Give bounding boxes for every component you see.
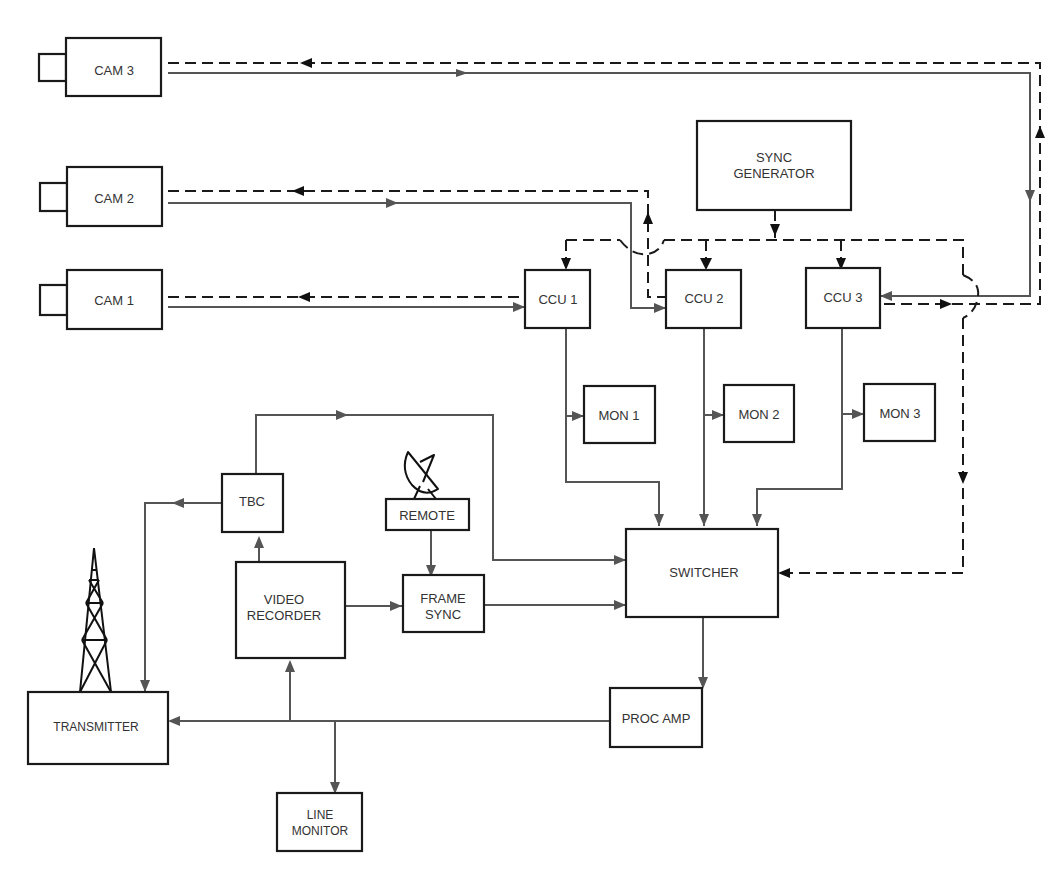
svg-text:PROC AMP: PROC AMP xyxy=(622,711,691,726)
svg-text:SWITCHER: SWITCHER xyxy=(669,565,738,580)
transmitter-block[interactable]: TRANSMITTER xyxy=(28,692,168,764)
sync-generator-to-switcher xyxy=(780,318,963,573)
monitor-3-block[interactable]: MON 3 xyxy=(864,384,935,441)
svg-text:MON 3: MON 3 xyxy=(879,406,920,421)
wire-tbc-to-switcher xyxy=(256,415,626,560)
wire-tbc-to-transmitter xyxy=(145,503,222,692)
sync-ccu2-to-cam2 xyxy=(168,191,666,297)
frame-sync-block[interactable]: FRAME SYNC xyxy=(403,575,484,632)
svg-text:MON 1: MON 1 xyxy=(598,408,639,423)
monitor-1-block[interactable]: MON 1 xyxy=(584,386,655,443)
svg-text:CCU 2: CCU 2 xyxy=(684,291,723,306)
svg-text:REMOTE: REMOTE xyxy=(399,508,455,523)
wire-cam3-to-ccu3 xyxy=(168,73,1030,296)
cam1-label: CAM 1 xyxy=(94,293,134,308)
ccu-2-block[interactable]: CCU 2 xyxy=(666,270,741,328)
sync-hop-over xyxy=(620,240,664,254)
svg-text:SYNC: SYNC xyxy=(425,607,461,622)
svg-text:SYNC: SYNC xyxy=(756,150,792,165)
tbc-block[interactable]: TBC xyxy=(222,474,283,532)
svg-text:CCU 3: CCU 3 xyxy=(823,290,862,305)
switcher-block[interactable]: SWITCHER xyxy=(626,529,778,617)
svg-text:FRAME: FRAME xyxy=(420,591,466,606)
svg-text:RECORDER: RECORDER xyxy=(247,608,321,623)
camera-2[interactable]: CAM 2 xyxy=(40,167,162,226)
svg-text:TBC: TBC xyxy=(239,494,265,509)
proc-amp-block[interactable]: PROC AMP xyxy=(610,688,702,747)
camera-lens-icon xyxy=(40,285,67,315)
camera-lens-icon xyxy=(40,183,67,211)
svg-text:MON 2: MON 2 xyxy=(738,407,779,422)
cam3-label: CAM 3 xyxy=(94,63,134,78)
satellite-dish-icon xyxy=(405,452,438,499)
sync-ccu3-to-cam3 xyxy=(168,63,1040,304)
sync-signal-wires xyxy=(168,58,1045,578)
wire-cam2-to-ccu2 xyxy=(168,203,666,308)
broadcast-block-diagram: CAM 3 CAM 2 CAM 1 SYNC GENERATOR CCU 1 C… xyxy=(0,0,1064,869)
transmission-tower-icon xyxy=(80,548,111,692)
svg-text:TRANSMITTER: TRANSMITTER xyxy=(53,720,139,734)
sync-generator-block[interactable]: SYNC GENERATOR xyxy=(697,121,851,210)
svg-text:LINE: LINE xyxy=(307,808,334,822)
svg-text:CCU 1: CCU 1 xyxy=(538,292,577,307)
cam2-label: CAM 2 xyxy=(94,191,134,206)
remote-block[interactable]: REMOTE xyxy=(386,499,469,530)
camera-3[interactable]: CAM 3 xyxy=(39,38,161,96)
svg-text:VIDEO: VIDEO xyxy=(264,592,304,607)
ccu-3-block[interactable]: CCU 3 xyxy=(806,268,880,328)
video-recorder-block[interactable]: VIDEO RECORDER xyxy=(236,562,345,658)
monitor-2-block[interactable]: MON 2 xyxy=(724,385,794,442)
ccu-1-block[interactable]: CCU 1 xyxy=(525,270,590,328)
camera-1[interactable]: CAM 1 xyxy=(40,270,162,329)
camera-lens-icon xyxy=(39,54,66,81)
svg-text:MONITOR: MONITOR xyxy=(292,824,349,838)
line-monitor-block[interactable]: LINE MONITOR xyxy=(277,793,362,851)
svg-text:GENERATOR: GENERATOR xyxy=(733,166,814,181)
